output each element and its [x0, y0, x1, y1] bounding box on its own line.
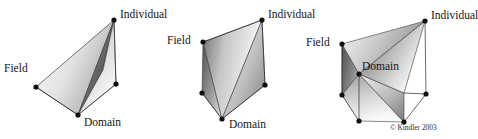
panel-3-edge-right-vertical [425, 21, 426, 94]
figure-panel: Individual Field Domain Individual Field… [0, 0, 478, 139]
panel-2-vertex-aux-left [199, 90, 204, 95]
panel-1-vertex-domain [75, 112, 80, 117]
panel-1-figure: Individual Field Domain [4, 8, 167, 128]
panel-2-label-field: Field [167, 34, 191, 46]
triad-diagram: Individual Field Domain Individual Field… [0, 0, 478, 139]
panel-2-vertex-domain [219, 116, 224, 121]
panel-2-vertex-aux-right [262, 82, 267, 87]
panel-3-vertex-individual [422, 18, 427, 23]
panel-3-figure: Individual Field Domain [306, 9, 478, 125]
panel-2-vertex-individual [259, 17, 264, 22]
panel-1-vertex-field [33, 84, 38, 89]
panel-3-vertex-aux-front-bottom [356, 118, 361, 123]
panel-1-vertex-aux [113, 81, 118, 86]
panel-1-label-domain: Domain [84, 116, 121, 128]
panel-3-vertex-domain [356, 71, 361, 76]
panel-1-label-individual: Individual [120, 8, 167, 20]
panel-3-label-individual: Individual [431, 9, 478, 21]
panel-2-label-domain: Domain [229, 118, 266, 130]
panel-3-vertex-aux-left-bottom [339, 92, 344, 97]
panel-2-vertex-field [200, 39, 205, 44]
panel-3-edge-right-cross [404, 93, 426, 94]
panel-2-figure: Individual Field Domain [167, 8, 315, 130]
panel-3-label-field: Field [306, 36, 330, 48]
panel-3-vertex-field [339, 41, 344, 46]
panel-1-vertex-individual [111, 17, 116, 22]
panel-1-label-field: Field [4, 62, 28, 74]
panel-2-label-individual: Individual [268, 8, 315, 20]
panel-3-vertex-aux-right [423, 91, 428, 96]
panel-3-label-domain: Domain [362, 60, 399, 72]
panel-3-edge-bottom-right [404, 94, 426, 122]
copyright-notice: © Kindler 2003 [390, 123, 437, 132]
